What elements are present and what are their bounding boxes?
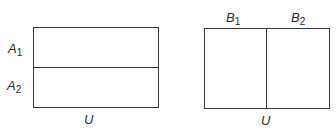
label-b2-letter: B — [291, 10, 300, 25]
label-left-universe-text: U — [84, 112, 93, 127]
label-a2-letter: A — [7, 78, 16, 93]
label-b1-letter: B — [226, 10, 235, 25]
right-universe-rectangle — [204, 28, 330, 109]
left-universe-rectangle — [33, 27, 159, 108]
label-right-universe-text: U — [261, 113, 270, 128]
label-a1-letter: A — [8, 41, 17, 56]
label-a2-index: 2 — [16, 84, 22, 95]
label-right-universe: U — [261, 114, 270, 127]
left-partition-divider — [34, 67, 158, 68]
label-a2: A2 — [7, 79, 21, 95]
label-left-universe: U — [84, 113, 93, 126]
label-a1: A1 — [8, 42, 22, 58]
label-b1-index: 1 — [235, 16, 241, 27]
label-a1-index: 1 — [17, 47, 23, 58]
label-b1: B1 — [226, 11, 240, 27]
label-b2-index: 2 — [300, 16, 306, 27]
label-b2: B2 — [291, 11, 305, 27]
right-partition-divider — [266, 29, 267, 108]
